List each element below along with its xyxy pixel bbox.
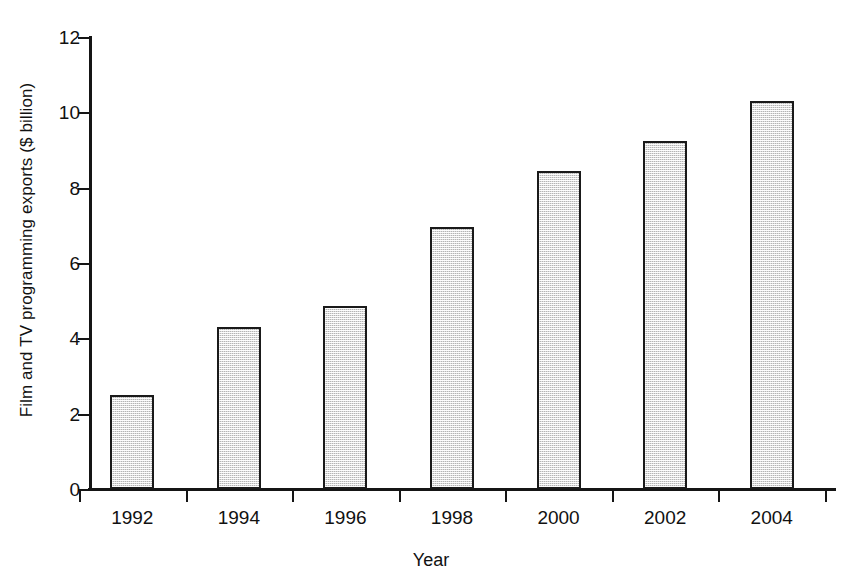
x-tick-mark <box>292 491 294 502</box>
plot-area: 024681012 <box>89 37 835 489</box>
bar <box>110 395 154 489</box>
bar <box>323 306 367 489</box>
y-tick-label: 8 <box>69 178 80 197</box>
x-tick-mark <box>718 491 720 502</box>
bar <box>750 101 794 489</box>
y-tick-label: 4 <box>69 329 80 348</box>
y-tick-label: 6 <box>69 254 80 273</box>
x-tick-label: 2002 <box>644 508 686 527</box>
x-tick-mark <box>399 491 401 502</box>
x-tick-label: 2000 <box>537 508 579 527</box>
bar <box>430 227 474 489</box>
x-tick-mark <box>612 491 614 502</box>
x-tick-label: 1992 <box>111 508 153 527</box>
y-tick-label: 2 <box>69 404 80 423</box>
x-tick-label: 1994 <box>218 508 260 527</box>
x-axis-title: Year <box>0 550 862 571</box>
y-tick-label: 10 <box>59 103 80 122</box>
y-tick-label: 12 <box>59 28 80 47</box>
x-tick-mark <box>79 491 81 502</box>
bar <box>537 171 581 489</box>
y-axis-title: Film and TV programming exports ($ billi… <box>10 0 44 500</box>
x-tick-mark <box>825 491 827 502</box>
x-tick-group: 1992199419961998200020022004 <box>89 491 835 551</box>
bar <box>643 141 687 489</box>
x-tick-label: 1998 <box>431 508 473 527</box>
bar-chart: Film and TV programming exports ($ billi… <box>0 0 862 585</box>
x-tick-mark <box>186 491 188 502</box>
x-tick-label: 1996 <box>324 508 366 527</box>
x-tick-mark <box>505 491 507 502</box>
x-tick-label: 2004 <box>751 508 793 527</box>
bar <box>217 327 261 489</box>
